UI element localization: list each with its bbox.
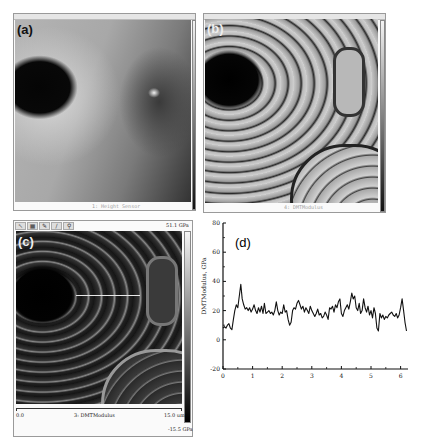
y-axis-label: DMTModulus, GPa [200,257,207,315]
channel-label: 3: DMTModulus [74,412,115,418]
panel-b-footer-label: 4: DMTModulus [284,204,323,210]
zoom-icon[interactable]: ⚲ [63,222,74,230]
panel-a-label: (a) [17,22,33,37]
colorbar-min-label: -15.5 GPa [168,426,193,432]
profile-line [223,284,407,331]
panel-a-height-image: (a) 1: Height Sensor [13,13,196,211]
x-tick-label: 6 [399,372,403,379]
y-tick-label: 0 [216,336,220,343]
panel-b-label: (b) [207,21,224,36]
scale-start-label: 0.0 [16,412,24,418]
pointer-icon[interactable]: ↖ [15,222,26,230]
y-tick-label: 20 [212,307,220,314]
x-tick-label: 0 [221,372,225,379]
panel-b-modulus-image: (b) 4: DMTModulus [203,13,386,213]
panel-b-colorbar [380,20,385,212]
panel-a-colorbar [192,20,196,210]
panel-c-inclusion [146,256,178,326]
chart-svg: -200204060800123456DMTModulus, GPa(d) [200,215,425,395]
x-tick-label: 3 [310,372,314,379]
panel-c-afm-image: (c) [16,231,182,404]
panel-c-modulus-image: ↖ ▦ ✎ ∕ ⚲ 51.1 GPa (c) 0.0 3: DMTModulus… [13,220,193,437]
panel-d-label: (d) [235,235,251,250]
modulus-profile-chart: -200204060800123456DMTModulus, GPa(d) [200,215,425,395]
panel-a-footer-label: 1: Height Sensor [92,203,140,209]
panel-c-lower-grain [101,349,182,404]
panel-b-lower-grain [290,144,378,203]
y-tick-label: -20 [210,365,220,372]
y-tick-label: 60 [212,248,220,255]
x-tick-label: 2 [280,372,284,379]
pencil-icon[interactable]: ✎ [39,222,50,230]
y-tick-label: 80 [212,219,220,226]
panel-b-inclusion [333,47,365,117]
panel-a-afm-image: (a) [15,20,191,202]
scale-bar [16,408,182,411]
panel-c-colorbar [184,231,191,423]
scale-end-label: 15.0 um [164,412,185,418]
x-tick-label: 4 [339,372,343,379]
y-tick-label: 40 [212,277,220,284]
section-line[interactable] [76,295,140,296]
x-tick-label: 1 [251,372,255,379]
grid-icon[interactable]: ▦ [27,222,38,230]
panel-c-label: (c) [18,234,34,249]
colorbar-max-label: 51.1 GPa [166,222,189,228]
line-icon[interactable]: ∕ [51,222,62,230]
x-tick-label: 5 [369,372,373,379]
panel-b-afm-image: (b) [205,19,378,203]
